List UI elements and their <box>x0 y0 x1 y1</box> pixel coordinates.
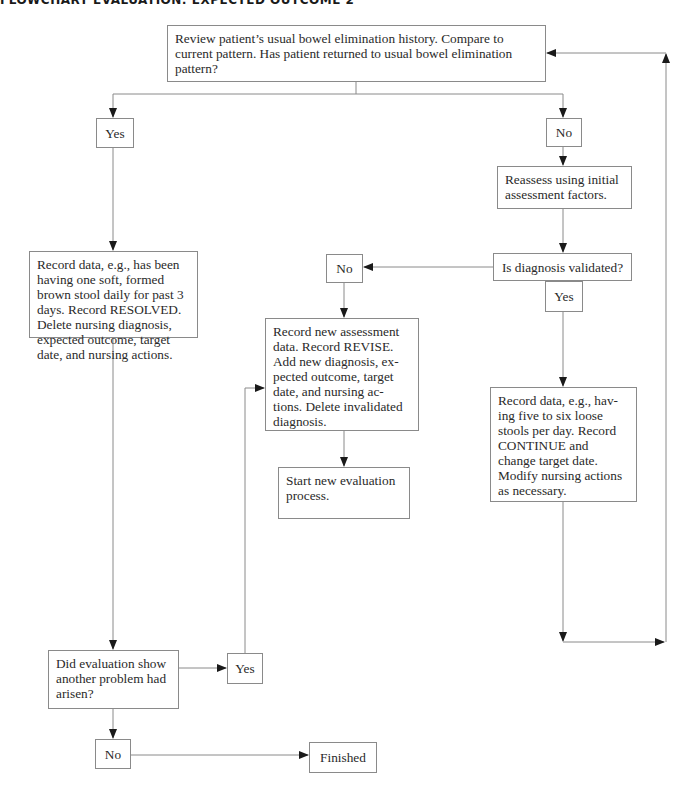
no-returned-box: No <box>546 118 582 147</box>
continue-box: Record data, e.g., hav-ing five to six l… <box>490 387 637 502</box>
no-problem-label: No <box>105 747 121 762</box>
no-validated-box: No <box>326 254 363 283</box>
another-problem-box: Did evaluation show another problem had … <box>48 650 179 709</box>
revise-box: Record new assessment data. Record REVIS… <box>265 318 419 431</box>
start-new-evaluation-box: Start new evaluation process. <box>278 467 410 519</box>
resolved-box: Record data, e.g., has been having one s… <box>29 251 198 338</box>
reassess-box: Reassess using initial assessment factor… <box>497 166 632 209</box>
no-validated-label: No <box>336 261 352 276</box>
finished-box: Finished <box>309 742 377 773</box>
diagnosis-validated-label: Is diagnosis validated? <box>502 260 623 275</box>
yes-problem-label: Yes <box>235 661 254 676</box>
diagnosis-validated-box: Is diagnosis validated? <box>493 253 632 281</box>
start-review-box: Review patient’s usual bowel elimination… <box>167 25 546 82</box>
yes-validated-box: Yes <box>545 281 583 312</box>
yes-returned-box: Yes <box>96 118 134 148</box>
finished-label: Finished <box>320 750 366 765</box>
no-returned-label: No <box>556 125 572 140</box>
yes-returned-label: Yes <box>105 126 124 141</box>
yes-validated-label: Yes <box>554 289 573 304</box>
no-problem-box: No <box>95 739 131 769</box>
yes-problem-box: Yes <box>227 653 263 684</box>
